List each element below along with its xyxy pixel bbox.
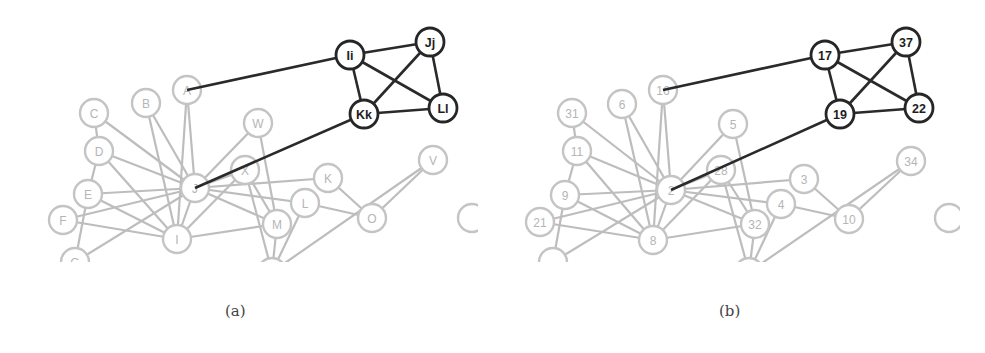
edge-muted: [577, 151, 653, 240]
node-n9: 9: [551, 181, 579, 209]
node-K: K: [314, 164, 342, 192]
graph-a: ABCDEFJIWXKLMOVGIiJjKkLl: [0, 0, 478, 262]
node-label: F: [59, 214, 66, 228]
node-label: 19: [833, 108, 847, 122]
node-label: I: [175, 233, 178, 247]
node-label: 5: [730, 118, 737, 132]
node-label: 17: [818, 49, 832, 63]
node-label: J: [192, 182, 198, 196]
node-label: Ii: [347, 49, 354, 63]
node-label: 31: [565, 107, 579, 121]
node-n10: 10: [835, 205, 863, 233]
node-Ll: Ll: [429, 94, 457, 122]
panel-b: 1663111921285283432103417371922: [485, 0, 977, 270]
node-label: C: [90, 107, 99, 121]
node-label: O: [367, 212, 376, 226]
node-n17: 17: [811, 41, 839, 69]
node-label: W: [252, 117, 264, 131]
node-label: 34: [904, 155, 918, 169]
node-label: 8: [650, 234, 657, 248]
node-nP: [935, 204, 960, 232]
node-n3: 3: [790, 165, 818, 193]
node-label: 22: [912, 102, 926, 116]
node-label: K: [324, 172, 332, 186]
node-Kk: Kk: [350, 100, 378, 128]
node-Ii: Ii: [336, 41, 364, 69]
node-F: F: [49, 206, 77, 234]
node-P: [458, 204, 478, 232]
node-B: B: [132, 89, 160, 117]
node-M: M: [263, 210, 291, 238]
node-label: 10: [842, 213, 856, 227]
node-D: D: [85, 137, 113, 165]
node-label: 4: [778, 198, 785, 212]
node-L: L: [291, 189, 319, 217]
node-label: G: [70, 256, 79, 263]
node-O: O: [358, 204, 386, 232]
node-label: E: [84, 188, 92, 202]
node-n4: 4: [767, 190, 795, 218]
node-G: G: [61, 248, 89, 262]
node-label: B: [142, 97, 150, 111]
node-n32: 32: [741, 210, 769, 238]
node-I: I: [163, 225, 191, 253]
node-n31: 31: [558, 99, 586, 127]
node-C: C: [80, 99, 108, 127]
node-label: 9: [562, 189, 569, 203]
node-n6: 6: [608, 90, 636, 118]
edge-highlighted: [187, 55, 350, 90]
edge-highlighted: [663, 55, 825, 90]
node-n11: 11: [563, 137, 591, 165]
node-label: 32: [748, 218, 762, 232]
node-Jj: Jj: [416, 28, 444, 56]
node-n8: 8: [639, 226, 667, 254]
node-label: 3: [801, 173, 808, 187]
caption-a: (a): [225, 302, 246, 320]
graph-b: 1663111921285283432103417371922: [485, 0, 960, 262]
node-label: M: [272, 218, 282, 232]
node-label: 11: [571, 145, 584, 159]
node-n19: 19: [826, 100, 854, 128]
node-label: Kk: [356, 108, 372, 122]
caption-b: (b): [719, 302, 740, 320]
node-label: Ll: [437, 102, 448, 116]
node-n37: 37: [892, 28, 920, 56]
node-W: W: [244, 109, 272, 137]
node-n28: 28: [707, 156, 735, 184]
node-n5: 5: [719, 110, 747, 138]
node-V: V: [419, 146, 447, 174]
edge-muted: [733, 124, 755, 224]
node-n22: 22: [905, 94, 933, 122]
node-label: Jj: [425, 36, 435, 50]
node-label: D: [95, 145, 104, 159]
node-n34: 34: [897, 147, 925, 175]
node-label: L: [302, 197, 309, 211]
node-label: 37: [899, 36, 913, 50]
node-n21: 21: [526, 208, 554, 236]
node-nN: [735, 258, 763, 262]
node-E: E: [74, 180, 102, 208]
node-label: 21: [533, 216, 547, 230]
node-label: 2: [668, 184, 675, 198]
node-label: 6: [619, 98, 626, 112]
node-nG: [539, 248, 567, 262]
node-label: V: [429, 154, 437, 168]
node-N: [258, 258, 286, 262]
panel-a: ABCDEFJIWXKLMOVGIiJjKkLl: [0, 0, 492, 270]
